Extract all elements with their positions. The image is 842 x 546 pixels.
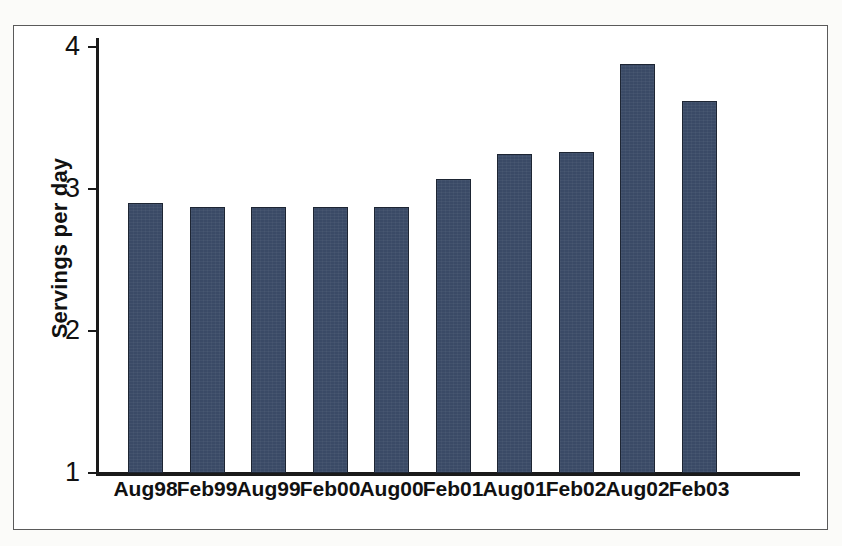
bar [559, 152, 594, 473]
bar [497, 154, 532, 474]
bar-series-group [0, 0, 842, 546]
bar [682, 101, 717, 473]
bar [620, 64, 655, 473]
bar-chart-plot-area: Servings per day 1234 Aug98Feb99Aug99Feb… [0, 0, 842, 546]
bar [128, 203, 163, 473]
bar [190, 207, 225, 473]
bar [251, 207, 286, 473]
x-axis-tick-label: Feb03 [657, 478, 741, 499]
bar [436, 179, 471, 473]
bar [374, 207, 409, 473]
bar [313, 207, 348, 473]
figure-container: Servings per day 1234 Aug98Feb99Aug99Feb… [0, 0, 842, 546]
